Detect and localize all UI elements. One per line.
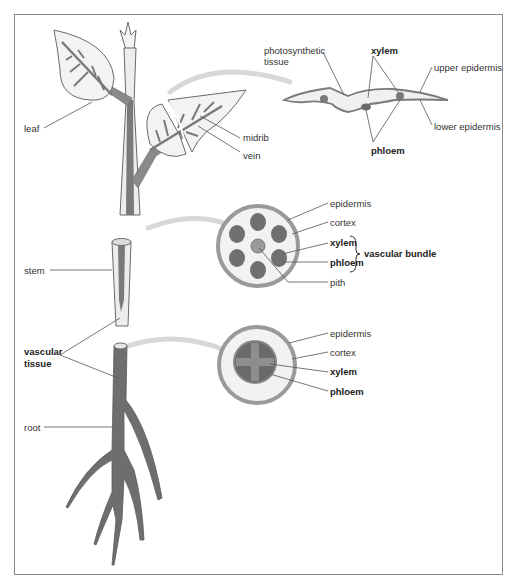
- stem-cross-section: [218, 206, 298, 286]
- label-stem-xylem: xylem: [330, 237, 357, 248]
- label-root-phloem: phloem: [330, 386, 364, 397]
- label-leaf: leaf: [24, 123, 39, 134]
- label-root-epidermis: epidermis: [330, 328, 371, 339]
- plant-diagram: [0, 0, 517, 585]
- label-midrib: midrib: [243, 132, 269, 143]
- label-root-cortex: cortex: [330, 347, 356, 358]
- plant-root: [66, 339, 225, 565]
- label-leaf-phloem: phloem: [371, 145, 405, 156]
- arrow-to-root-section: [128, 339, 225, 350]
- label-leaf-xylem: xylem: [371, 45, 398, 56]
- arrow-to-leaf-section: [170, 72, 290, 92]
- label-pith: pith: [330, 277, 345, 288]
- label-photosynthetic-line1: photosynthetic: [264, 45, 325, 56]
- label-upper-epidermis: upper epidermis: [434, 62, 502, 73]
- label-vascular-bundle: vascular bundle: [364, 248, 436, 259]
- label-vascular-tissue-line2: tissue: [24, 358, 51, 369]
- label-stem-phloem: phloem: [330, 257, 364, 268]
- label-stem: stem: [24, 265, 45, 276]
- label-vascular-tissue-line1: vascular: [24, 346, 63, 357]
- label-lower-epidermis: lower epidermis: [434, 121, 501, 132]
- plant-shoot: [54, 22, 290, 215]
- root-cross-section: [219, 327, 295, 403]
- label-photosynthetic-line2: tissue: [264, 56, 289, 67]
- label-vein: vein: [243, 150, 260, 161]
- label-stem-epidermis: epidermis: [330, 198, 371, 209]
- label-stem-cortex: cortex: [330, 217, 356, 228]
- label-root-xylem: xylem: [330, 366, 357, 377]
- label-root: root: [24, 422, 40, 433]
- flower-bud-icon: [120, 22, 136, 50]
- leaf-cross-section: [284, 88, 448, 112]
